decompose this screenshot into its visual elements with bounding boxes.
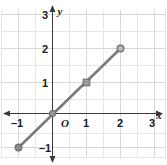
data-point-1-1 [83,79,90,86]
y-tick-label-2: 2 [42,43,48,55]
y-axis [50,5,56,163]
y-tick-label-minus1: –1 [39,142,51,154]
x-axis-name-label: x [155,109,162,121]
x-tick-label-1: 1 [83,117,89,129]
y-axis-name-label: y [56,5,63,17]
origin-label: O [61,117,69,129]
data-point-2-2 [117,45,124,52]
x-axis [3,111,163,117]
x-tick-label-2: 2 [117,117,123,129]
data-point-minus1-minus1 [15,144,22,151]
y-tick-label-3: 3 [42,9,48,21]
x-tick-label-3: 3 [149,117,155,129]
x-tick-label-minus1: –1 [11,117,23,129]
data-point-origin [50,111,56,117]
coordinate-plane-figure: –1 1 2 3 –1 1 2 3 O x y [0,0,167,165]
graph-svg: –1 1 2 3 –1 1 2 3 O x y [0,0,167,165]
y-tick-label-1: 1 [42,77,48,89]
